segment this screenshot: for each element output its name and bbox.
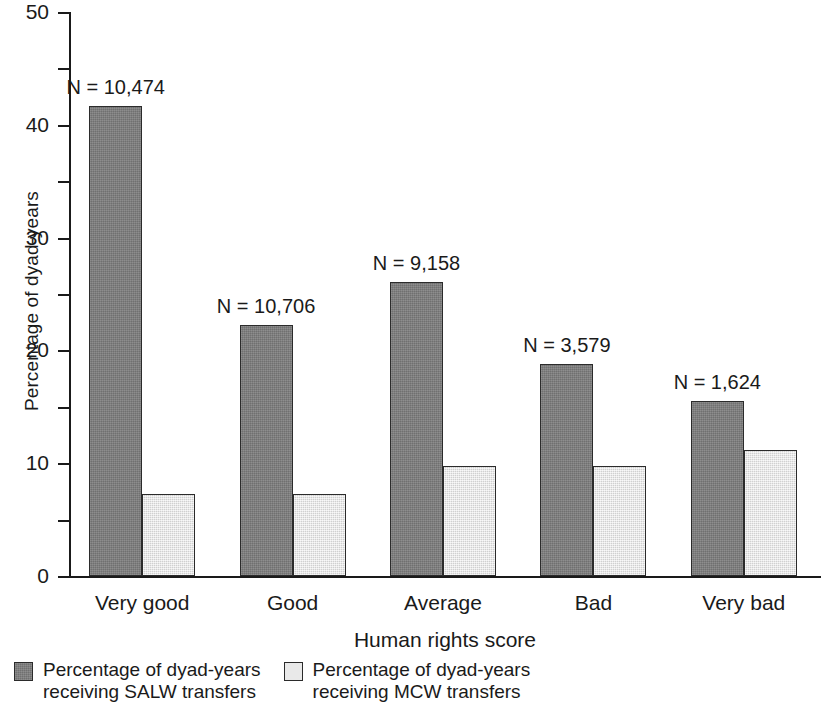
y-axis-tick-label: 30 — [26, 227, 49, 248]
legend-label: Percentage of dyad-years receiving MCW t… — [313, 659, 531, 703]
legend-swatch-mcw-icon — [284, 662, 303, 681]
y-axis-tick: 40 — [58, 125, 71, 127]
plot-area: 50403020100 N = 10,474N = 10,706N = 9,15… — [69, 14, 821, 578]
legend-swatch-salw-icon — [14, 662, 33, 681]
y-axis-tick: 30 — [58, 238, 71, 240]
y-axis-title: Percentage of dyad-years — [21, 101, 43, 501]
y-axis-tick-label: 20 — [26, 339, 49, 360]
y-axis-tick-label: 50 — [26, 1, 49, 22]
x-axis-category-label: Average — [404, 592, 482, 614]
bar-group: N = 10,706 — [221, 14, 371, 576]
bar-salw — [540, 364, 593, 576]
y-axis-tick: 20 — [58, 350, 71, 352]
bar-salw — [240, 325, 293, 576]
chart-legend: Percentage of dyad-years receiving SALW … — [14, 659, 814, 703]
y-axis-tick: 0 — [58, 576, 71, 578]
bar-salw — [691, 401, 744, 576]
y-axis-tick-label: 40 — [26, 114, 49, 135]
bar-mcw — [293, 494, 346, 576]
y-axis-tick-label: 10 — [26, 452, 49, 473]
bar-mcw — [593, 466, 646, 576]
x-axis-category-label: Good — [267, 592, 318, 614]
bar-n-annotation: N = 10,706 — [217, 296, 315, 316]
bar-group: N = 3,579 — [522, 14, 672, 576]
bar-mcw — [443, 466, 496, 576]
x-axis-category-label: Very bad — [702, 592, 785, 614]
x-axis-line — [69, 576, 821, 578]
y-axis-tick — [58, 294, 71, 296]
y-axis-tick: 50 — [58, 12, 71, 14]
y-axis-tick — [58, 181, 71, 183]
y-axis-tick: 10 — [58, 463, 71, 465]
bar-n-annotation: N = 1,624 — [674, 372, 761, 392]
y-axis-tick-label: 0 — [37, 565, 49, 586]
y-axis-tick — [58, 520, 71, 522]
bar-series-container: N = 10,474N = 10,706N = 9,158N = 3,579N … — [71, 14, 821, 576]
bar-mcw — [744, 450, 797, 576]
x-axis-category-label: Bad — [575, 592, 612, 614]
y-axis-tick — [58, 407, 71, 409]
bar-n-annotation: N = 9,158 — [373, 253, 460, 273]
legend-label: Percentage of dyad-years receiving SALW … — [43, 659, 261, 703]
legend-item-mcw: Percentage of dyad-years receiving MCW t… — [284, 659, 531, 703]
bar-salw — [89, 106, 142, 576]
bar-n-annotation: N = 3,579 — [523, 335, 610, 355]
bar-group: N = 1,624 — [673, 14, 823, 576]
x-axis-category-label: Very good — [95, 592, 190, 614]
bar-group: N = 10,474 — [71, 14, 221, 576]
bar-mcw — [142, 494, 195, 576]
bar-n-annotation: N = 10,474 — [66, 77, 164, 97]
bar-salw — [390, 282, 443, 576]
bar-group: N = 9,158 — [372, 14, 522, 576]
x-axis-title: Human rights score — [69, 628, 821, 652]
y-axis-tick — [58, 68, 71, 70]
legend-item-salw: Percentage of dyad-years receiving SALW … — [14, 659, 261, 703]
